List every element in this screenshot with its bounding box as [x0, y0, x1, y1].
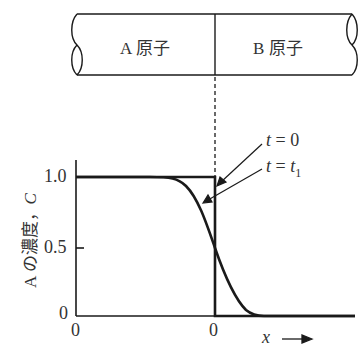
xtick-center-0: 0 [209, 320, 218, 341]
annotation-t1-eq: = [271, 156, 290, 176]
ytick-0: 0 [59, 303, 68, 324]
region-a-label: A 原子 [120, 34, 170, 59]
annotation-t0-val: 0 [290, 130, 299, 150]
annotation-t0-eq: = [271, 130, 290, 150]
y-axis-label: A の濃度，C [16, 193, 41, 288]
ytick-1-0: 1.0 [44, 166, 67, 187]
annotation-arrows [203, 144, 262, 203]
region-b-label: B 原子 [253, 34, 303, 59]
rod-diagram [72, 14, 358, 75]
y-axis-label-text: A の濃度， [21, 204, 40, 288]
x-direction-arrow [282, 335, 312, 343]
ytick-0-5: 0.5 [44, 237, 67, 258]
annotation-t1-sub: 1 [295, 166, 301, 180]
annotation-t1: t = t1 [266, 156, 301, 181]
annotation-t0: t = 0 [266, 130, 299, 151]
xtick-left-0: 0 [71, 320, 80, 341]
x-axis-label: x [262, 327, 270, 348]
y-axis-label-var: C [21, 193, 40, 204]
